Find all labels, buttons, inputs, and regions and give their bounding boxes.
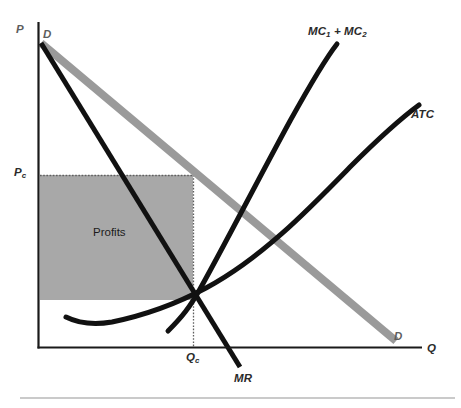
demand-curve-top-label: D (43, 29, 51, 41)
x-axis-label: Q (427, 343, 436, 355)
marginal-revenue-label: MR (234, 373, 252, 385)
marginal-cost-label-operator: + (334, 25, 341, 37)
y-axis-label: P (16, 24, 24, 36)
average-total-cost-label: ATC (411, 109, 434, 121)
price-c-label: Pc (14, 167, 26, 179)
diagram-canvas (0, 0, 461, 408)
economics-diagram: P D Pc Profits Qc MR MC1 + MC2 ATC D Q (0, 0, 461, 408)
demand-curve-right-label: D (394, 331, 402, 343)
marginal-cost-sum-label: MC1 + MC2 (308, 26, 367, 38)
marginal-cost-label-mc1: MC (308, 25, 326, 37)
price-c-label-subscript: c (22, 171, 27, 180)
quantity-c-label: Qc (186, 352, 200, 364)
profits-region-label: Profits (93, 227, 126, 239)
quantity-c-label-text: Q (186, 351, 195, 363)
quantity-c-label-subscript: c (195, 356, 200, 365)
price-c-label-text: P (14, 166, 22, 178)
marginal-cost-label-sub2: 2 (362, 30, 367, 39)
marginal-cost-label-sub1: 1 (326, 30, 331, 39)
marginal-cost-label-mc2: MC (344, 25, 362, 37)
